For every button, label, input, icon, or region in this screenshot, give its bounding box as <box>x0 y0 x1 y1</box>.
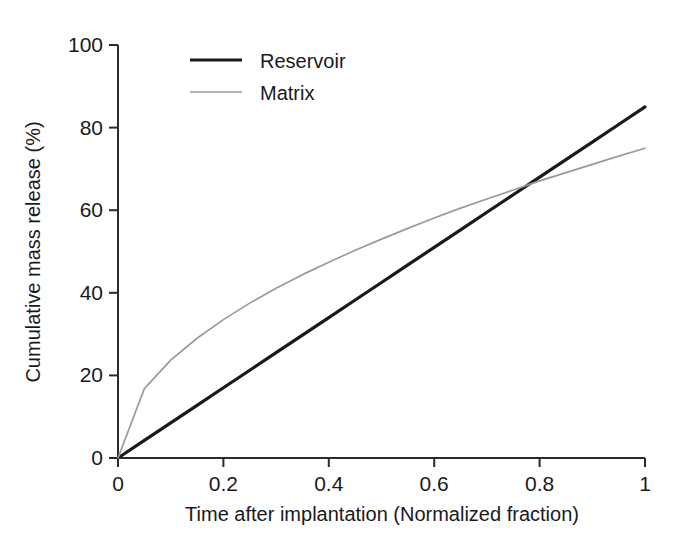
line-chart: 020406080100 00.20.40.60.81 ReservoirMat… <box>0 0 685 552</box>
x-axis-tick-label: 0 <box>112 472 124 495</box>
x-axis-tick-label: 0.2 <box>209 472 238 495</box>
y-axis-tick-label: 60 <box>80 198 103 221</box>
chart-background <box>0 0 685 552</box>
y-axis-tick-label: 100 <box>68 33 103 56</box>
chart-figure: 020406080100 00.20.40.60.81 ReservoirMat… <box>0 0 685 552</box>
y-axis-title: Cumulative mass release (%) <box>22 121 44 382</box>
legend-label-reservoir: Reservoir <box>260 50 346 72</box>
x-axis-tick-label: 1 <box>639 472 651 495</box>
y-axis-tick-label: 0 <box>91 446 103 469</box>
y-axis-tick-label: 40 <box>80 281 103 304</box>
x-axis-title: Time after implantation (Normalized frac… <box>185 503 579 525</box>
y-axis-tick-label: 80 <box>80 116 103 139</box>
legend-label-matrix: Matrix <box>260 82 314 104</box>
x-axis-tick-label: 0.6 <box>420 472 449 495</box>
x-axis-tick-label: 0.8 <box>525 472 554 495</box>
x-axis-tick-label: 0.4 <box>314 472 344 495</box>
y-axis-tick-label: 20 <box>80 363 103 386</box>
